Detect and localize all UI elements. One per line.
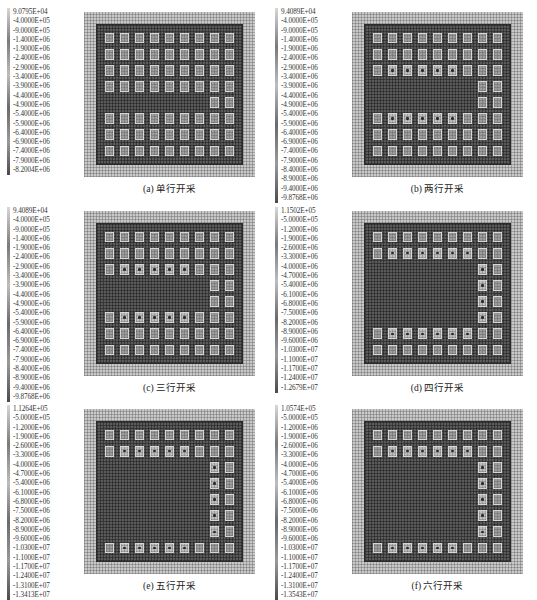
- pillar: [150, 49, 160, 60]
- pillar-cell: [460, 62, 475, 78]
- pillar-cell: [102, 127, 117, 143]
- mined-cell: [400, 492, 415, 508]
- legend-tick: -1.9000E+06: [281, 235, 359, 244]
- pillar-cell: [490, 127, 505, 143]
- pillar-cell: [102, 540, 117, 556]
- pillar: [135, 430, 145, 441]
- mined-cell: [460, 492, 475, 508]
- mined-cell: [132, 459, 147, 475]
- pillar-cell: [132, 443, 147, 459]
- pillar-cell: [102, 229, 117, 245]
- legend-tick: -9.0000E+05: [281, 27, 359, 36]
- mined-cell: [370, 261, 385, 277]
- mined-cell: [192, 508, 207, 524]
- pillar-cell: [102, 245, 117, 261]
- pillar-cell: [490, 245, 505, 261]
- pillar-cell: [400, 62, 415, 78]
- pillar-cell: [222, 46, 237, 62]
- pillar-cell: [207, 127, 222, 143]
- panel-caption: (b) 两行开采: [352, 181, 523, 195]
- pillar: [493, 494, 503, 505]
- pillar-cell: [147, 46, 162, 62]
- pillar: [433, 49, 443, 60]
- pillar: [135, 113, 145, 124]
- legend-tick: -7.9000E+06: [13, 157, 91, 166]
- pillar-cell: [400, 111, 415, 127]
- pillar: [418, 430, 428, 441]
- pillar: [225, 430, 235, 441]
- mined-cell: [460, 310, 475, 326]
- pillar: [478, 462, 488, 473]
- pillar: [225, 345, 235, 356]
- mined-cell: [102, 95, 117, 111]
- pillar-cell: [117, 30, 132, 46]
- stress-contour-plot: [84, 12, 255, 177]
- pillar-cell: [162, 540, 177, 556]
- pillar-cell: [400, 342, 415, 358]
- pillar: [225, 49, 235, 60]
- mined-cell: [460, 95, 475, 111]
- mined-cell: [445, 310, 460, 326]
- pillar: [403, 248, 413, 259]
- pillar-cell: [460, 245, 475, 261]
- pillar: [180, 65, 190, 76]
- pillar-cell: [207, 143, 222, 159]
- pillar: [180, 113, 190, 124]
- pillar: [210, 248, 220, 259]
- pillar-cell: [102, 326, 117, 342]
- pillar: [493, 296, 503, 307]
- legend-tick: -1.2400E+07: [281, 374, 359, 383]
- pillar: [433, 146, 443, 157]
- pillar: [135, 33, 145, 44]
- legend-tick: -6.1000E+06: [281, 291, 359, 300]
- pillar-cell: [460, 30, 475, 46]
- mined-cell: [400, 261, 415, 277]
- pillar: [478, 97, 488, 108]
- pillar: [225, 462, 235, 473]
- pillar: [463, 248, 473, 259]
- pillar-cell: [102, 46, 117, 62]
- legend-tick: -8.9000E+06: [281, 328, 359, 337]
- pillar: [105, 232, 115, 243]
- pillar-cell: [162, 427, 177, 443]
- pillar-cell: [162, 62, 177, 78]
- pillar: [180, 264, 190, 275]
- pillar: [448, 65, 458, 76]
- mined-cell: [430, 310, 445, 326]
- legend-tick: -4.7000E+06: [281, 470, 359, 479]
- pillar: [225, 526, 235, 537]
- pillar-cell: [162, 342, 177, 358]
- pillar: [150, 248, 160, 259]
- pillar-cell: [192, 326, 207, 342]
- pillar: [418, 345, 428, 356]
- mined-cell: [132, 277, 147, 293]
- pillar: [493, 146, 503, 157]
- mined-cell: [415, 95, 430, 111]
- legend-tick: -6.4000E+06: [13, 129, 91, 138]
- pillar-cell: [400, 143, 415, 159]
- pillar-cell: [385, 342, 400, 358]
- colorbar-legend: 9.4089E+04-4.0000E+05-9.0000E+05-1.4000E…: [7, 207, 85, 402]
- pillar: [180, 129, 190, 140]
- pillar: [150, 146, 160, 157]
- mined-cell: [117, 294, 132, 310]
- pillar: [373, 232, 383, 243]
- pillar: [195, 146, 205, 157]
- mined-cell: [192, 294, 207, 310]
- pillar: [210, 280, 220, 291]
- pillar: [210, 526, 220, 537]
- pillar-cell: [460, 229, 475, 245]
- pillar-grid: [102, 229, 237, 358]
- pillar: [225, 264, 235, 275]
- pillar: [493, 280, 503, 291]
- mined-cell: [162, 277, 177, 293]
- pillar-cell: [460, 127, 475, 143]
- pillar: [478, 81, 488, 92]
- pillar-cell: [385, 127, 400, 143]
- pillar-cell: [177, 143, 192, 159]
- pillar: [210, 543, 220, 554]
- pillar-cell: [102, 427, 117, 443]
- pillar: [210, 328, 220, 339]
- pillar-cell: [102, 143, 117, 159]
- mined-cell: [147, 294, 162, 310]
